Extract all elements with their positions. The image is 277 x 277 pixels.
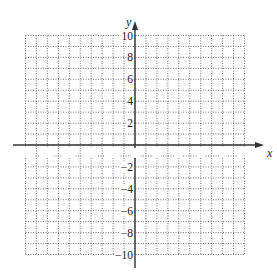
x-axis-arrow-icon bbox=[255, 142, 264, 148]
y-tick-label: −6 bbox=[121, 205, 133, 217]
y-tick-label: 2 bbox=[127, 117, 133, 129]
coordinate-plane: xy−10−8−6−4−20246810−10−8−6−4−2246810 bbox=[0, 0, 277, 277]
y-tick-label: −8 bbox=[121, 227, 133, 239]
y-axis-label: y bbox=[125, 15, 132, 29]
y-tick-label: −2 bbox=[121, 161, 133, 173]
y-tick-label: 6 bbox=[127, 73, 133, 85]
y-tick-label: −4 bbox=[121, 183, 133, 195]
y-tick-label: 10 bbox=[122, 30, 134, 42]
y-tick-label: 8 bbox=[127, 51, 133, 63]
y-tick-label: −10 bbox=[115, 249, 133, 261]
x-axis-label: x bbox=[266, 146, 273, 160]
y-tick-label: 4 bbox=[127, 95, 133, 107]
